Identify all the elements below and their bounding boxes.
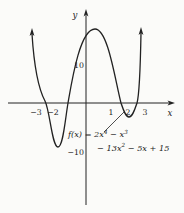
formula-line2-body2: − 5x + 15 <box>125 143 169 153</box>
formula-line2-body: − 13x <box>97 143 122 153</box>
x-tick-labels: −3 −2 1 2 3 <box>30 108 147 117</box>
y-tick-10: 10 <box>74 61 84 70</box>
formula-line1-exp3: 3 <box>124 129 128 135</box>
x-tick-2: 2 <box>126 108 131 117</box>
polynomial-graph-figure: −3 −2 1 2 3 10 −10 y x f(x) = 2x4 − x3 −… <box>0 0 184 213</box>
y-tick-labels: 10 −10 <box>68 61 85 157</box>
x-axis <box>8 101 175 106</box>
x-tick-minus3: −3 <box>30 108 42 117</box>
x-tick-3: 3 <box>143 108 148 117</box>
formula-line2: − 13x2 − 5x + 15 <box>97 142 169 152</box>
x-tick-1: 1 <box>109 108 114 117</box>
formula-line1: f(x) = 2x4 − x3 <box>67 129 128 139</box>
graph-canvas: −3 −2 1 2 3 10 −10 y x f(x) = 2x4 − x3 −… <box>0 0 184 213</box>
formula-line1-body: f(x) = 2x <box>67 129 104 139</box>
x-tick-minus2: −2 <box>47 108 59 117</box>
formula-line1-body2: − x <box>108 129 125 139</box>
y-axis-label: y <box>72 10 78 20</box>
x-axis-label: x <box>168 108 173 118</box>
y-tick-minus10: −10 <box>68 148 84 157</box>
